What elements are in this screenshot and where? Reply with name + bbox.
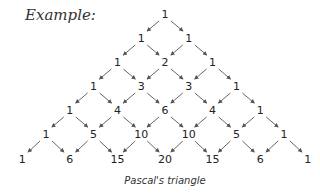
arrow-icon — [171, 93, 183, 103]
arrow-icon — [171, 45, 183, 55]
arrow-icon — [100, 141, 112, 152]
arrow-icon — [195, 45, 207, 55]
triangle-number: 20 — [158, 153, 172, 166]
triangle-number: 10 — [182, 128, 196, 141]
arrow-icon — [147, 141, 159, 152]
triangle-number: 15 — [110, 153, 124, 166]
triangle-number: 1 — [19, 153, 26, 166]
arrow-icon — [290, 141, 302, 152]
arrow-icon — [171, 21, 183, 31]
arrow-icon — [76, 141, 88, 152]
triangle-number: 10 — [134, 128, 148, 141]
triangle-number: 4 — [114, 104, 121, 117]
arrow-icon — [123, 93, 135, 103]
arrow-icon — [123, 45, 135, 55]
triangle-number: 6 — [66, 153, 73, 166]
triangle-number: 5 — [233, 128, 240, 141]
arrow-icon — [123, 141, 135, 152]
arrow-icon — [100, 69, 112, 79]
triangle-number: 1 — [138, 32, 145, 45]
triangle-number: 1 — [209, 56, 216, 69]
triangle-number: 1 — [43, 128, 50, 141]
arrow-icon — [100, 93, 112, 103]
triangle-number: 2 — [162, 56, 169, 69]
arrow-icon — [147, 93, 159, 103]
triangle-number: 1 — [304, 153, 311, 166]
arrow-icon — [195, 117, 207, 127]
arrow-icon — [123, 69, 135, 79]
triangle-number: 6 — [257, 153, 264, 166]
triangle-number: 1 — [281, 128, 288, 141]
arrow-icon — [147, 117, 159, 127]
arrow-icon — [76, 117, 88, 127]
triangle-number: 1 — [185, 32, 192, 45]
arrow-icon — [195, 93, 207, 103]
arrow-icon — [266, 141, 278, 152]
arrow-icon — [219, 93, 231, 103]
triangle-number: 1 — [233, 80, 240, 93]
triangle-number: 4 — [209, 104, 216, 117]
arrow-icon — [242, 117, 254, 127]
triangle-number: 6 — [162, 104, 169, 117]
arrow-icon — [219, 141, 231, 152]
triangle-number: 1 — [114, 56, 121, 69]
triangle-number: 1 — [162, 8, 169, 21]
arrow-icon — [147, 21, 159, 31]
arrow-icon — [219, 117, 231, 127]
arrow-icon — [219, 69, 231, 79]
arrow-icon — [52, 117, 64, 127]
arrow-icon — [28, 141, 40, 152]
arrow-icon — [147, 45, 159, 55]
arrow-icon — [123, 117, 135, 127]
triangle-number: 1 — [90, 80, 97, 93]
triangle-number: 3 — [185, 80, 192, 93]
triangle-number: 1 — [66, 104, 73, 117]
arrow-icon — [195, 141, 207, 152]
pascals-triangle-diagram: 111121133114641151010511615201561 — [0, 0, 320, 193]
triangle-number: 1 — [257, 104, 264, 117]
triangle-number: 5 — [90, 128, 97, 141]
arrow-icon — [100, 117, 112, 127]
arrow-icon — [76, 93, 88, 103]
arrow-icon — [195, 69, 207, 79]
arrow-icon — [171, 69, 183, 79]
triangle-number: 3 — [138, 80, 145, 93]
arrow-icon — [171, 117, 183, 127]
arrow-icon — [147, 69, 159, 79]
triangle-number: 15 — [206, 153, 220, 166]
arrow-icon — [242, 93, 254, 103]
arrow-icon — [171, 141, 183, 152]
diagram-caption: Pascal's triangle — [0, 175, 320, 186]
arrow-icon — [242, 141, 254, 152]
arrow-icon — [52, 141, 64, 152]
arrow-icon — [266, 117, 278, 127]
